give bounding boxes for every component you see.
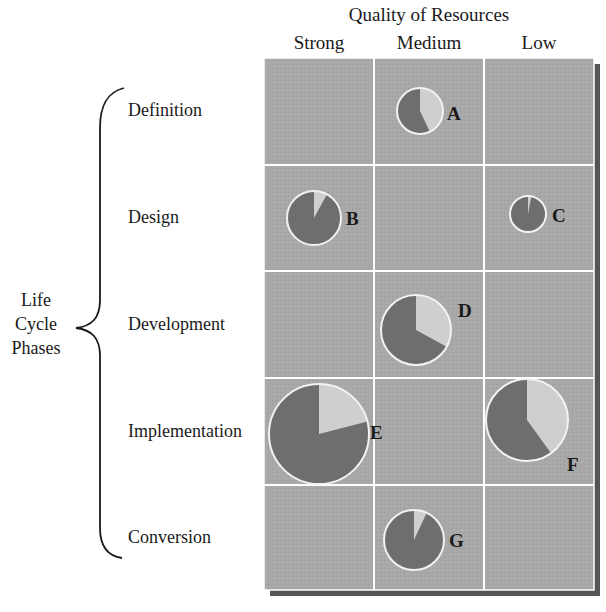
pie-c	[510, 196, 546, 232]
bubble-label-d: D	[458, 300, 472, 322]
pie-e	[269, 384, 369, 484]
bubble-label-e: E	[370, 422, 383, 444]
bubble-matrix	[0, 0, 606, 612]
bubble-label-a: A	[447, 103, 461, 125]
bubble-label-f: F	[567, 454, 579, 476]
curly-brace	[76, 88, 124, 558]
bubble-label-g: G	[449, 530, 464, 552]
pie-d	[381, 295, 451, 365]
pie-f	[486, 379, 568, 461]
pie-a	[397, 88, 443, 134]
pie-b	[287, 191, 341, 245]
pie-g	[384, 510, 444, 570]
bubble-label-c: C	[552, 205, 566, 227]
bubble-label-b: B	[346, 208, 359, 230]
